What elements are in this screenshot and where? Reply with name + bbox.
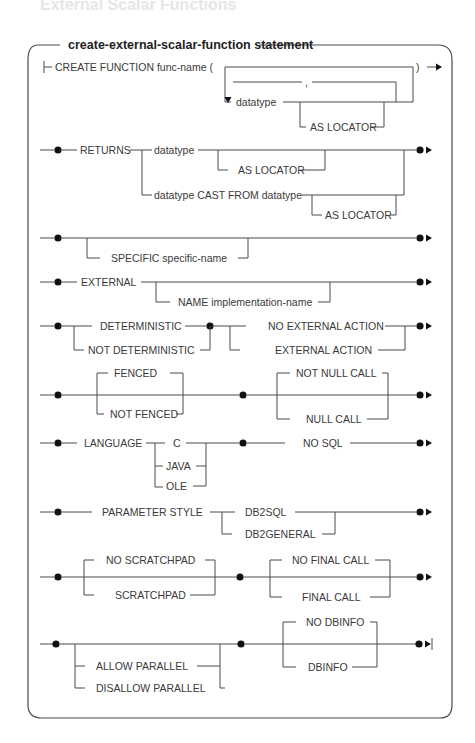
language-c-label: C [173, 437, 181, 449]
external-action-label: EXTERNAL ACTION [275, 344, 372, 356]
cast-from-label: datatype CAST FROM datatype [154, 189, 302, 201]
implementation-name-label: NAME implementation-name [178, 296, 312, 308]
connector-line [197, 644, 220, 666]
connector-line [170, 373, 183, 395]
connector-line [352, 644, 377, 667]
as-locator-label: AS LOCATOR [238, 164, 305, 176]
connector-line [155, 443, 163, 487]
language-java-label: JAVA [166, 460, 191, 472]
final-call-label: FINAL CALL [302, 591, 361, 603]
fenced-label: FENCED [114, 367, 158, 379]
connector-line [84, 577, 94, 595]
junction-dot [416, 234, 423, 241]
connector-line [190, 577, 215, 595]
connector-line [375, 560, 390, 577]
connector-line [302, 150, 404, 195]
allow-parallel-label: ALLOW PARALLEL [96, 660, 188, 672]
separator-label: , [305, 76, 308, 88]
junction-dot [54, 278, 61, 285]
junction-dot [236, 573, 243, 580]
language-label: LANGUAGE [84, 437, 142, 449]
no-final-call-label: NO FINAL CALL [292, 554, 369, 566]
connector-line [200, 326, 210, 350]
junction-dot [54, 234, 61, 241]
junction-dot [416, 573, 423, 580]
language-ole-label: OLE [166, 480, 187, 492]
no-sql-label: NO SQL [303, 437, 343, 449]
connector-line [156, 282, 170, 302]
connector-line [367, 395, 388, 419]
connector-line [238, 238, 248, 258]
not-deterministic-label: NOT DETERMINISTIC [88, 344, 195, 356]
junction-dot [54, 508, 61, 515]
specific-name-label: SPECIFIC specific-name [111, 252, 227, 264]
junction-dot [239, 391, 246, 398]
connector-line [370, 577, 390, 597]
not-null-call-label: NOT NULL CALL [296, 367, 377, 379]
junction-dot [239, 439, 246, 446]
datatype-label: datatype [154, 144, 194, 156]
junction-dot [416, 146, 423, 153]
junction-dot [54, 391, 61, 398]
continue-arrow-icon [426, 574, 432, 581]
disallow-parallel-label: DISALLOW PARALLEL [96, 682, 206, 694]
parameter-style-label: PARAMETER STYLE [102, 506, 203, 518]
no-dbinfo-label: NO DBINFO [306, 616, 364, 628]
connector-line [225, 67, 231, 102]
continue-arrow-icon [426, 235, 432, 242]
connector-line [300, 102, 306, 127]
continue-arrow-icon [426, 323, 432, 330]
syntax-diagram: External Scalar Functions create-externa… [0, 0, 475, 743]
connector-line [218, 150, 228, 170]
junction-dot [416, 508, 423, 515]
continue-arrow-icon [426, 440, 432, 447]
page-header-faded: External Scalar Functions [40, 0, 237, 13]
connector-line [74, 326, 84, 350]
continue-arrow-icon [436, 64, 442, 71]
connector-line [97, 395, 104, 414]
junction-dot [416, 322, 423, 329]
continue-arrow-icon [426, 509, 432, 516]
connector-line [205, 560, 215, 577]
connector-line [277, 395, 290, 419]
close-paren-label: ) [416, 61, 420, 73]
connector-line [222, 512, 232, 534]
junction-dot [416, 439, 423, 446]
connector-line [270, 577, 282, 597]
junction-dot [54, 146, 61, 153]
returns-label: RETURNS [80, 144, 131, 156]
connector-line [230, 326, 240, 350]
junction-dot [237, 640, 244, 647]
diagram-title: create-external-scalar-function statemen… [68, 38, 314, 52]
datatype-label: datatype [236, 96, 276, 108]
connector-line [97, 373, 108, 395]
dbinfo-label: DBINFO [308, 661, 348, 673]
connector-line [312, 195, 322, 215]
connector-line [318, 282, 330, 302]
not-fenced-label: NOT FENCED [110, 408, 178, 420]
connector-line [283, 644, 296, 667]
continue-arrow-icon [426, 147, 432, 154]
junction-dot [54, 573, 61, 580]
junction-dot [52, 640, 59, 647]
connector-line [370, 622, 377, 644]
no-external-action-label: NO EXTERNAL ACTION [268, 320, 384, 332]
as-locator-label: AS LOCATOR [325, 209, 392, 221]
deterministic-label: DETERMINISTIC [100, 320, 182, 332]
junction-dot [415, 640, 422, 647]
connector-line [283, 622, 296, 644]
connector-line [84, 560, 94, 577]
junction-dot [54, 439, 61, 446]
connector-line [87, 238, 100, 258]
connector-line [193, 466, 206, 486]
connector-line [382, 373, 388, 395]
junction-dot [54, 322, 61, 329]
junction-dot [416, 278, 423, 285]
continue-arrow-icon [426, 279, 432, 286]
connector-line [322, 512, 335, 534]
as-locator-label: AS LOCATOR [310, 121, 377, 133]
connector-line [220, 666, 225, 688]
connector-line [277, 373, 290, 395]
connector-line [283, 67, 413, 102]
no-scratchpad-label: NO SCRATCHPAD [106, 554, 196, 566]
